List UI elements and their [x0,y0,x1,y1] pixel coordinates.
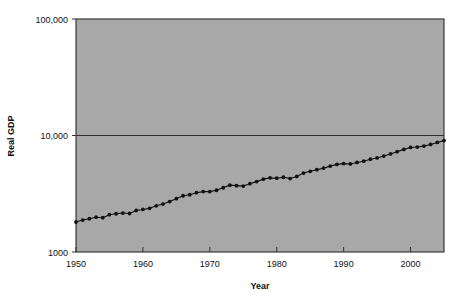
data-point [302,171,306,175]
data-point [389,152,393,156]
data-point [335,162,339,166]
data-point [342,162,346,166]
x-tick-label: 1960 [133,259,153,269]
data-point [402,147,406,151]
data-point [355,161,359,165]
data-point [255,180,259,184]
data-point [261,177,265,181]
data-point [322,166,326,170]
data-point [141,208,145,212]
data-point [308,169,312,173]
data-point [395,150,399,154]
x-axis-title: Year [250,281,270,291]
y-tick-label: 10,000 [40,131,68,141]
data-point [195,191,199,195]
data-point [275,176,279,180]
x-tick-label: 1950 [66,259,86,269]
data-point [114,212,118,216]
data-point [415,145,419,149]
y-tick-label: 100,000 [35,15,68,25]
data-point [315,168,319,172]
x-tick-label: 2000 [401,259,421,269]
data-point [409,146,413,150]
y-axis-title: Real GDP [6,115,16,156]
data-point [362,159,366,163]
data-point [429,143,433,147]
data-point [228,183,232,187]
data-point [282,175,286,179]
y-tick-label: 1000 [48,248,68,258]
chart-figure: 195019601970198019902000 100010,000100,0… [0,0,459,297]
data-point [235,184,239,188]
data-point [201,190,205,194]
data-point [94,215,98,219]
data-point [108,213,112,217]
data-point [442,139,446,143]
data-point [154,204,158,208]
data-point [215,188,219,192]
data-point [328,164,332,168]
data-point [295,175,299,179]
data-point [121,211,125,215]
data-point [81,218,85,222]
data-point [382,154,386,158]
data-point [241,184,245,188]
data-point [288,177,292,181]
data-point [168,200,172,204]
data-point [221,186,225,190]
data-point [128,212,132,216]
x-tick-label: 1990 [334,259,354,269]
data-point [101,216,105,220]
data-point [268,176,272,180]
data-point [375,156,379,160]
data-point [348,162,352,166]
data-point [174,197,178,201]
data-point [161,202,165,206]
x-tick-label: 1980 [267,259,287,269]
data-point [208,190,212,194]
data-point [74,220,78,224]
data-point [422,144,426,148]
data-point [148,206,152,210]
chart-plot: 195019601970198019902000 100010,000100,0… [0,0,459,297]
data-point [181,194,185,198]
data-point [134,209,138,213]
x-tick-label: 1970 [200,259,220,269]
data-point [87,217,91,221]
data-point [248,182,252,186]
data-point [435,141,439,145]
data-point [369,157,373,161]
data-point [188,193,192,197]
